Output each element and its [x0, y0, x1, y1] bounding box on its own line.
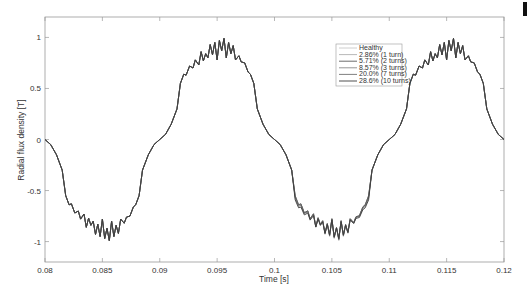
x-tick-label: 0.11	[382, 266, 398, 275]
x-axis-label: Time [s]	[259, 274, 289, 284]
x-tick-label: 0.09	[152, 266, 168, 275]
y-tick-label: 0.5	[30, 84, 42, 93]
legend: Healthy2.86% (1 turn)5.71% (2 turns)8.57…	[336, 44, 411, 86]
flux-density-chart: 0.080.0850.090.0950.10.1050.110.1150.12 …	[0, 0, 528, 295]
y-tick-label: 1	[37, 33, 42, 42]
x-tick-label: 0.105	[322, 266, 343, 275]
y-tick-label: -1	[34, 238, 42, 247]
y-axis-label: Radial flux density [T]	[16, 99, 26, 180]
edge-mark	[523, 2, 527, 16]
x-tick-label: 0.12	[496, 266, 512, 275]
legend-item-label: 28.6% (10 turns)	[359, 77, 411, 85]
x-tick-label: 0.085	[92, 266, 113, 275]
y-tick-label: 0	[37, 136, 42, 145]
x-tick-label: 0.115	[437, 266, 457, 275]
x-tick-label: 0.08	[37, 266, 53, 275]
y-tick-label: -0.5	[27, 187, 41, 196]
x-tick-label: 0.095	[207, 266, 228, 275]
